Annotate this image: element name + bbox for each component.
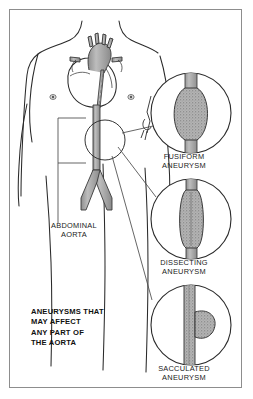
label-abdominal-aorta: ABDOMINAL AORTA — [26, 221, 122, 239]
aorta-focus-circle — [85, 120, 125, 160]
aortic-arch — [70, 33, 122, 73]
label-fusiform-aneurysm: FUSIFORM ANEURYSM — [130, 152, 238, 170]
detail-circle-dissecting — [151, 176, 231, 262]
label-dissecting-aneurysm: DISSECTING ANEURYSM — [130, 258, 238, 276]
figure-caption: ANEURYSMS THAT MAY AFFECT ANY PART OF TH… — [31, 307, 151, 349]
abdominal-aorta — [93, 105, 100, 172]
detail-circle-fusiform — [151, 70, 231, 156]
nipple-marks — [50, 95, 134, 100]
iliac-arteries — [81, 170, 112, 210]
label-sacculated-aneurysm: SACCULATED ANEURYSM — [128, 364, 240, 382]
detail-circle-sacculated — [151, 282, 231, 368]
figure-frame: FUSIFORM ANEURYSM DISSECTING ANEURYSM SA… — [0, 0, 253, 399]
arm-detail — [141, 96, 151, 140]
